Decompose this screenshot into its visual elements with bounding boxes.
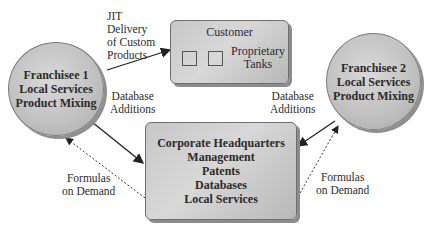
formulas-right-label: Formulas on Demand [316,171,369,197]
franchisee-2-node: Franchisee 2 Local Services Product Mixi… [326,33,421,130]
hq-patents: Patents [146,164,296,178]
tanks-text: Tanks [229,58,287,71]
db-left-line-1: Database [110,90,155,103]
db-right-line-1: Database [270,90,315,103]
jit-line-4: Products [107,49,155,62]
db-additions-left-arrow [92,122,143,163]
db-additions-right-label: Database Additions [270,90,315,116]
jit-line-1: JIT [107,10,155,23]
customer-node: Customer Proprietary Tanks [170,20,289,84]
franchisee-1-title: Franchisee 1 [24,68,89,82]
franchisee-1-line-2: Local Services [19,82,93,96]
hq-databases: Databases [146,178,296,192]
franchisee-1-node: Franchisee 1 Local Services Product Mixi… [8,42,104,136]
tank-icon [208,51,223,66]
jit-delivery-label: JIT Delivery of Custom Products [107,10,155,62]
formulas-left-line-2: on Demand [62,185,115,198]
jit-line-3: of Custom [107,36,155,49]
hq-title: Corporate Headquarters [146,136,296,150]
formulas-left-line-1: Formulas [62,172,115,185]
hq-local-services: Local Services [146,192,296,206]
db-additions-right-arrow [298,121,335,146]
tank-icon [182,51,197,66]
db-left-line-2: Additions [110,103,155,116]
db-right-line-2: Additions [270,103,315,116]
franchisee-1-line-3: Product Mixing [16,96,97,110]
corporate-hq-node: Corporate Headquarters Management Patent… [145,122,297,220]
db-additions-left-label: Database Additions [110,90,155,116]
franchisee-2-line-3: Product Mixing [333,89,414,103]
formulas-left-label: Formulas on Demand [62,172,115,198]
proprietary-tanks-label: Proprietary Tanks [229,45,287,71]
franchisee-2-line-2: Local Services [337,75,411,89]
formulas-right-line-2: on Demand [316,184,369,197]
customer-title: Customer [171,26,288,39]
jit-line-2: Delivery [107,23,155,36]
franchisee-2-title: Franchisee 2 [341,61,406,75]
formulas-right-line-1: Formulas [316,171,369,184]
hq-management: Management [146,150,296,164]
